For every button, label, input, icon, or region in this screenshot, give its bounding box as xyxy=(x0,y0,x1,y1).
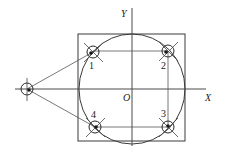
origin-label: O xyxy=(123,92,130,103)
x-axis-label: X xyxy=(204,92,212,103)
point-4-label: 4 xyxy=(91,109,96,120)
y-axis-label: Y xyxy=(121,8,128,19)
path-start-to-1 xyxy=(27,52,93,89)
coordinate-diagram: 1 2 3 4 Y X O xyxy=(0,0,225,154)
point-2-label: 2 xyxy=(161,60,166,71)
point-4-marker xyxy=(86,118,105,137)
point-3-label: 3 xyxy=(161,108,166,119)
point-1-label: 1 xyxy=(89,60,94,71)
path-4-to-start xyxy=(27,89,95,127)
point-3-marker xyxy=(159,118,178,137)
point-2-marker xyxy=(159,42,178,61)
